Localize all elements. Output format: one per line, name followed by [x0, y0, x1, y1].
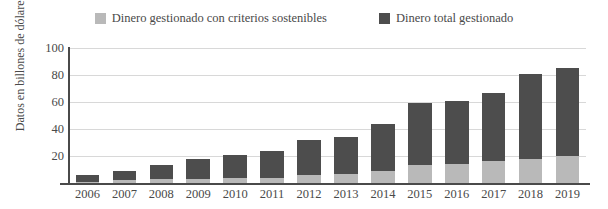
bar-segment-sustainable: [223, 178, 247, 183]
x-axis-tick-label: 2006: [69, 188, 106, 201]
y-axis-tick-label: 40: [30, 123, 64, 136]
bar-group: [556, 68, 580, 183]
x-axis-tick-label: 2014: [364, 188, 401, 201]
legend-item-total: Dinero total gestionado: [379, 12, 513, 25]
x-axis-tick-label: 2007: [106, 188, 143, 201]
bar-group: [223, 155, 247, 183]
bar-segment-sustainable: [445, 164, 469, 183]
x-axis-tick-label: 2019: [549, 188, 586, 201]
legend-label-total: Dinero total gestionado: [396, 12, 513, 25]
y-axis-tick-label: 20: [30, 150, 64, 163]
x-axis-tick-label: 2011: [254, 188, 291, 201]
y-axis-tick-label: 80: [30, 69, 64, 82]
x-axis-tick-labels: 2006200720082009201020112012201320142015…: [69, 188, 586, 206]
bar-segment-sustainable: [297, 175, 321, 183]
bar-group: [76, 175, 100, 183]
x-axis-tick-label: 2015: [401, 188, 438, 201]
bar-group: [334, 137, 358, 183]
bar-group: [371, 124, 395, 183]
legend-item-sustainable: Dinero gestionado con criterios sostenib…: [95, 12, 327, 25]
x-axis-tick-label: 2013: [328, 188, 365, 201]
bar-group: [113, 171, 137, 183]
legend-swatch-total: [379, 13, 390, 24]
bar-segment-sustainable: [186, 179, 210, 183]
x-axis-tick-label: 2018: [512, 188, 549, 201]
bar-segment-sustainable: [260, 178, 284, 183]
bar-segment-sustainable: [150, 179, 174, 183]
bar-group: [519, 74, 543, 183]
bar-segment-sustainable: [76, 182, 100, 183]
stacked-bar-chart: Dinero gestionado con criterios sostenib…: [0, 0, 608, 209]
bar-group: [445, 101, 469, 183]
bar-group: [482, 93, 506, 183]
y-axis-tick-label: 100: [30, 42, 64, 55]
chart-legend: Dinero gestionado con criterios sostenib…: [0, 6, 608, 30]
bar-segment-sustainable: [519, 159, 543, 183]
legend-label-sustainable: Dinero gestionado con criterios sostenib…: [112, 12, 327, 25]
bar-group: [260, 151, 284, 183]
bar-segment-sustainable: [482, 161, 506, 183]
x-axis-tick-label: 2008: [143, 188, 180, 201]
y-axis-tick-labels: 20406080100: [26, 48, 64, 183]
bar-group: [297, 140, 321, 183]
bar-segment-sustainable: [334, 174, 358, 183]
bar-group: [150, 165, 174, 183]
x-axis-tick-label: 2016: [438, 188, 475, 201]
bar-segment-sustainable: [371, 171, 395, 183]
bar-segment-sustainable: [408, 165, 432, 183]
bar-group: [186, 159, 210, 183]
x-axis-tick-label: 2009: [180, 188, 217, 201]
legend-swatch-sustainable: [95, 13, 106, 24]
x-axis-tick-label: 2010: [217, 188, 254, 201]
bar-segment-sustainable: [556, 156, 580, 183]
x-axis-tick-label: 2017: [475, 188, 512, 201]
bar-series-container: [69, 48, 586, 183]
y-axis-tick-label: 60: [30, 96, 64, 109]
x-axis-tick-label: 2012: [291, 188, 328, 201]
bar-segment-sustainable: [113, 180, 137, 183]
bar-group: [408, 103, 432, 183]
x-axis-line: [60, 183, 590, 185]
